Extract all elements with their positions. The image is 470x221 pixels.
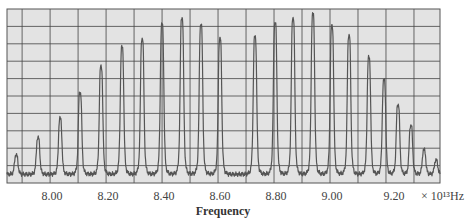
ir-spectrum-chart: 8.008.208.408.608.809.009.20 × 10¹³Hz Fr… bbox=[0, 0, 470, 221]
x-axis-title: Frequency bbox=[196, 204, 250, 218]
svg-text:8.80: 8.80 bbox=[266, 189, 287, 203]
svg-text:9.00: 9.00 bbox=[322, 189, 343, 203]
svg-text:8.00: 8.00 bbox=[42, 189, 63, 203]
svg-text:8.40: 8.40 bbox=[154, 189, 175, 203]
svg-text:9.20: 9.20 bbox=[383, 189, 404, 203]
svg-text:8.60: 8.60 bbox=[210, 189, 231, 203]
x-unit-label: × 10¹³Hz bbox=[421, 189, 464, 203]
x-tick-labels: 8.008.208.408.608.809.009.20 bbox=[42, 189, 405, 203]
svg-text:8.20: 8.20 bbox=[98, 189, 119, 203]
